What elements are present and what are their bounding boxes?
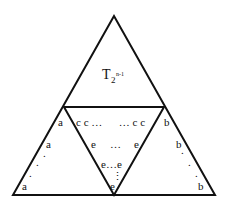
left-dot-1: .: [43, 147, 46, 159]
title-main: T: [102, 67, 111, 82]
label-e-left: e: [91, 138, 96, 150]
label-c-row: c c … … c c: [76, 116, 145, 128]
right-triangle-labels: b b . . . b: [164, 116, 204, 192]
label-b-3: b: [198, 180, 204, 192]
sierpinski-triangle-diagram: T 2 n-1 a a . . . a b b . . . b c c … … …: [0, 0, 227, 207]
left-dot-3: .: [29, 167, 32, 179]
label-a-1: a: [58, 116, 63, 128]
left-triangle-labels: a a . . . a: [22, 116, 63, 192]
right-dot-2: .: [188, 156, 191, 168]
middle-triangle-labels: c c … … c c e … e e…e ⋮ e: [76, 116, 145, 192]
left-dot-2: .: [36, 156, 39, 168]
label-e-row3: e…e: [101, 158, 122, 170]
right-dot-3: .: [195, 167, 198, 179]
label-b-1: b: [164, 116, 170, 128]
label-e-bottom: e: [110, 180, 115, 192]
label-e-dots: …: [110, 138, 121, 150]
right-dot-1: .: [181, 144, 184, 156]
label-a-3: a: [22, 180, 27, 192]
title-superscript: n-1: [116, 71, 124, 77]
title-subscript: 2: [111, 75, 116, 85]
label-e-right: e: [134, 138, 139, 150]
top-triangle-label: T 2 n-1: [102, 67, 124, 85]
label-a-2: a: [46, 138, 51, 150]
